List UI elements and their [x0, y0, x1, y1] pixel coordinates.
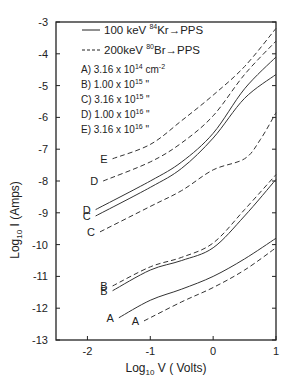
x-tick-label: 1	[273, 345, 279, 357]
curve-label: A	[107, 312, 115, 324]
y-tick-label: -3	[38, 16, 48, 28]
fluence-entry-a: A) 3.16 x 1014 cm-2	[81, 63, 165, 75]
y-tick-label: -12	[32, 302, 48, 314]
y-tick-label: -6	[38, 111, 48, 123]
y-tick-label: -8	[38, 175, 48, 187]
x-tick-label: -1	[145, 345, 155, 357]
y-tick-label: -13	[32, 334, 48, 346]
curve-b-solid	[113, 179, 276, 290]
curve-a-solid	[119, 238, 276, 317]
curve-label: C	[83, 210, 91, 222]
iv-chart: -3-4-5-6-7-8-9-10-11-12-13 -2-101 EDDCCB…	[0, 0, 290, 390]
curve-b-dashed	[113, 175, 276, 286]
curve-label: D	[90, 175, 98, 187]
y-axis-title: Log10 I (Amps)	[8, 181, 24, 259]
fluence-entry-c: C) 3.16 x 1015 "	[81, 93, 150, 105]
legend-entry: 100 keV 84Kr→PPS	[104, 23, 204, 36]
fluence-entry-e: E) 3.16 x 1016 "	[81, 123, 149, 135]
y-tick-label: -4	[38, 48, 48, 60]
x-tick-label: 0	[210, 345, 216, 357]
y-tick-label: -5	[38, 80, 48, 92]
y-tick-label: -11	[33, 270, 48, 282]
curve-label: C	[87, 226, 95, 238]
curve-label: E	[100, 153, 107, 165]
y-tick-label: -10	[32, 239, 48, 251]
curve-label: A	[132, 315, 140, 327]
y-tick-label: -9	[38, 207, 48, 219]
x-tick-label: -2	[83, 345, 93, 357]
fluence-entry-b: B) 1.00 x 1015 "	[81, 78, 149, 90]
y-tick-label: -7	[38, 143, 48, 155]
legend-entry: 200keV 80Br→PPS	[104, 43, 200, 56]
x-axis-ticks: -2-101	[83, 336, 280, 357]
x-axis-title: Log10 V ( Volts)	[126, 361, 207, 377]
fluence-entry-d: D) 1.00 x 1016 "	[81, 108, 150, 120]
curve-a-dashed	[144, 248, 276, 321]
curve-label: B	[100, 285, 107, 297]
